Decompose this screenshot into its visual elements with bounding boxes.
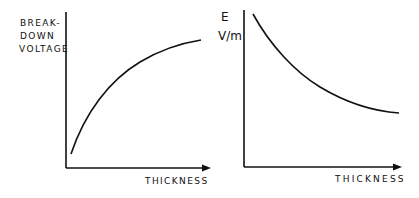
- right-chart: [244, 10, 402, 171]
- right-field-curve: [253, 14, 399, 113]
- left-xlabel: THICKNESS: [145, 176, 209, 187]
- left-chart: [66, 12, 211, 172]
- right-xlabel: THICKNESS: [335, 174, 406, 185]
- left-ylabel-line-3: VOLTAGE: [19, 44, 69, 55]
- right-ylabel-unit: V/m: [218, 30, 242, 43]
- right-x-axis-arrow-icon: [393, 164, 402, 171]
- left-x-axis-arrow-icon: [202, 165, 211, 172]
- right-ylabel-symbol: E: [221, 11, 229, 24]
- left-ylabel-line-1: BREAK-: [20, 18, 61, 29]
- left-breakdown-curve: [71, 40, 201, 154]
- left-ylabel-line-2: DOWN: [20, 31, 55, 42]
- charts-canvas: [0, 0, 419, 198]
